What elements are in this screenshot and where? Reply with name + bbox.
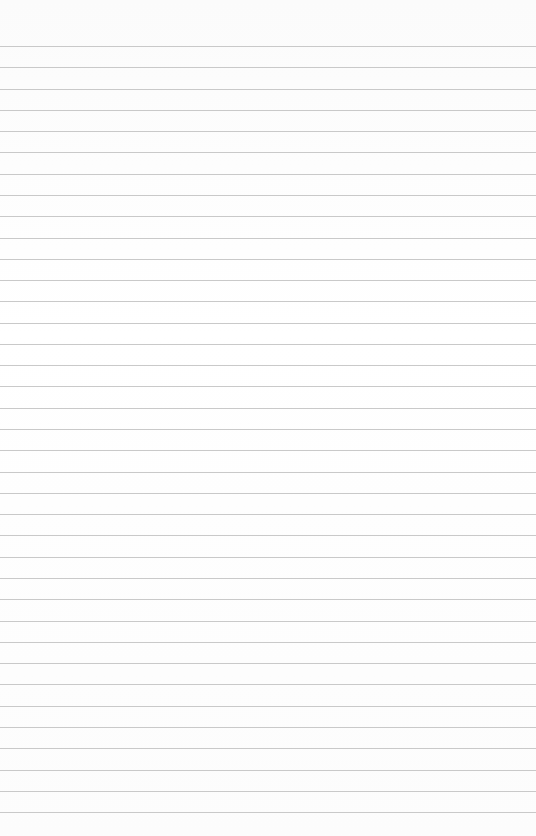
ruled-line	[0, 216, 536, 217]
ruled-line	[0, 408, 536, 409]
ruled-line	[0, 386, 536, 387]
lined-paper	[0, 0, 536, 836]
ruled-line	[0, 280, 536, 281]
ruled-line	[0, 706, 536, 707]
ruled-line	[0, 450, 536, 451]
ruled-line	[0, 748, 536, 749]
ruled-line	[0, 599, 536, 600]
ruled-line	[0, 472, 536, 473]
ruled-line	[0, 557, 536, 558]
ruled-line	[0, 812, 536, 813]
ruled-line	[0, 195, 536, 196]
ruled-line	[0, 323, 536, 324]
ruled-line	[0, 663, 536, 664]
ruled-line	[0, 514, 536, 515]
ruled-line	[0, 770, 536, 771]
ruled-line	[0, 110, 536, 111]
ruled-line	[0, 301, 536, 302]
ruled-line	[0, 642, 536, 643]
ruled-line	[0, 535, 536, 536]
ruled-line	[0, 174, 536, 175]
ruled-line	[0, 684, 536, 685]
ruled-line	[0, 791, 536, 792]
ruled-line	[0, 152, 536, 153]
ruled-line	[0, 365, 536, 366]
ruled-line	[0, 259, 536, 260]
ruled-line	[0, 621, 536, 622]
ruled-line	[0, 89, 536, 90]
ruled-line	[0, 131, 536, 132]
ruled-line	[0, 493, 536, 494]
ruled-line	[0, 344, 536, 345]
ruled-line	[0, 727, 536, 728]
ruled-line	[0, 578, 536, 579]
ruled-line	[0, 46, 536, 47]
ruled-line	[0, 238, 536, 239]
ruled-line	[0, 67, 536, 68]
ruled-line	[0, 429, 536, 430]
